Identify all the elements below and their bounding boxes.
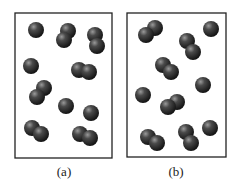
particle-diagram — [0, 0, 238, 184]
sphere — [89, 38, 105, 54]
sphere — [135, 87, 151, 103]
sphere — [183, 135, 199, 151]
sphere — [202, 120, 218, 136]
sphere — [203, 21, 219, 37]
atom — [202, 120, 218, 136]
atom — [203, 21, 219, 37]
atom — [135, 87, 151, 103]
atom — [23, 58, 39, 74]
sphere — [185, 44, 201, 60]
label-a: (a) — [44, 164, 84, 180]
sphere — [81, 64, 97, 80]
sphere — [160, 99, 176, 115]
sphere — [163, 64, 179, 80]
sphere — [23, 58, 39, 74]
sphere — [138, 27, 154, 43]
sphere — [29, 89, 45, 105]
sphere — [195, 77, 211, 93]
sphere — [83, 105, 99, 121]
sphere — [149, 135, 165, 151]
label-b: (b) — [156, 164, 196, 180]
sphere — [56, 32, 72, 48]
sphere — [33, 126, 49, 142]
atom — [28, 22, 44, 38]
atom — [58, 98, 74, 114]
atom — [83, 105, 99, 121]
sphere — [82, 130, 98, 146]
sphere — [28, 22, 44, 38]
atom — [195, 77, 211, 93]
sphere — [58, 98, 74, 114]
